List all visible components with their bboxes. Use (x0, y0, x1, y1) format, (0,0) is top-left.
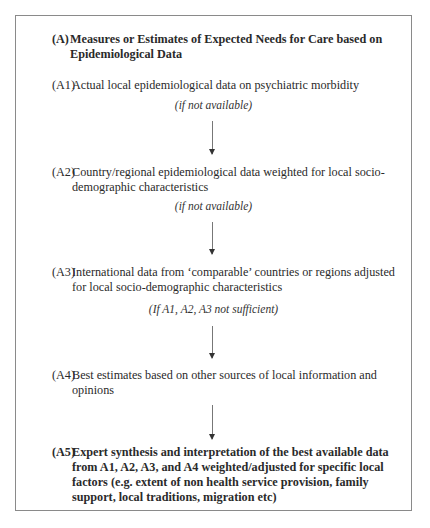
step-a1: (A1) Actual local epidemiological data o… (52, 78, 402, 93)
step-a3: (A3) International data from ‘comparable… (52, 265, 402, 295)
arrow-down-icon (212, 405, 213, 439)
condition-3: (If A1, A2, A3 not sufficient) (15, 303, 412, 315)
arrow-down-icon (212, 121, 213, 154)
step-a2: (A2) Country/regional epidemiological da… (52, 165, 402, 195)
arrow-down-icon (212, 326, 213, 358)
step-label: (A5) (52, 445, 75, 460)
step-text: International data from ‘comparable’ cou… (52, 265, 402, 295)
step-text: Actual local epidemiological data on psy… (52, 78, 402, 93)
step-text: Expert synthesis and interpretation of t… (52, 445, 402, 505)
step-text: Country/regional epidemiological data we… (52, 165, 402, 195)
diagram-title: (A) Measures or Estimates of Expected Ne… (52, 32, 402, 62)
step-label: (A3) (52, 265, 75, 280)
condition-1: (if not available) (15, 99, 412, 111)
title-text: Measures or Estimates of Expected Needs … (52, 32, 402, 62)
title-label: (A) (52, 32, 69, 47)
step-label: (A1) (52, 78, 75, 93)
step-text: Best estimates based on other sources of… (52, 368, 402, 398)
step-a4: (A4) Best estimates based on other sourc… (52, 368, 402, 398)
arrow-down-icon (212, 222, 213, 254)
step-label: (A4) (52, 368, 75, 383)
condition-2: (if not available) (15, 200, 412, 212)
step-label: (A2) (52, 165, 75, 180)
step-a5: (A5) Expert synthesis and interpretation… (52, 445, 402, 505)
